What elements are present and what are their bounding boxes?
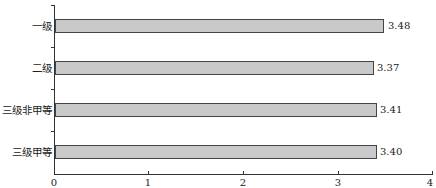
x-tick [338, 171, 339, 175]
value-label: 3.41 [380, 102, 402, 117]
bar [55, 103, 377, 117]
category-label: 三级甲等 [12, 145, 52, 160]
y-tick [51, 5, 55, 6]
x-tick [432, 171, 433, 175]
x-tick [148, 171, 149, 175]
x-tick-label: 3 [328, 177, 348, 188]
value-label: 3.37 [377, 60, 399, 75]
x-tick-label: 4 [420, 177, 436, 188]
category-label: 二级 [32, 61, 52, 76]
horizontal-bar-chart: 0 1 2 3 4 一级 3.48 二级 3.37 三级非甲等 3.41 三级甲… [0, 0, 436, 188]
category-label: 一级 [32, 19, 52, 34]
y-tick [51, 131, 55, 132]
x-tick-label: 1 [138, 177, 158, 188]
x-tick [243, 171, 244, 175]
bar [55, 61, 374, 75]
category-label: 三级非甲等 [2, 103, 52, 118]
y-tick [51, 89, 55, 90]
bar [55, 145, 377, 159]
x-tick-label: 2 [233, 177, 253, 188]
y-tick [51, 47, 55, 48]
value-label: 3.40 [380, 144, 402, 159]
x-tick-label: 0 [44, 177, 64, 188]
value-label: 3.48 [388, 18, 410, 33]
bar [55, 19, 384, 33]
